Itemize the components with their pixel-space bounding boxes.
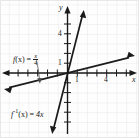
y-tick-label-4: 4 (58, 30, 62, 38)
y-axis-label: y (59, 4, 63, 12)
x-tick-label-1: 1 (75, 76, 79, 84)
annotation-f-equals: = (25, 55, 34, 64)
inverse-functions-figure: y x 4 1 1 4 f(x)=x4 f-1(x)=4x (0, 0, 139, 138)
annotation-f-denominator: 4 (33, 60, 38, 67)
x-tick-label-4: 4 (104, 76, 108, 84)
annotation-f-inverse-of-x: f-1(x)=4x (11, 108, 44, 119)
y-tick-label-1: 1 (58, 59, 62, 67)
annotation-finv-arg: (x) (18, 110, 27, 119)
annotation-finv-equals: = (28, 110, 37, 119)
annotation-f-arg: (x) (15, 55, 24, 64)
annotation-f-of-x: f(x)=x4 (13, 53, 38, 68)
annotation-finv-rhs: 4x (36, 110, 44, 119)
annotation-f-fraction: x4 (33, 53, 38, 68)
x-axis-label: x (132, 76, 136, 84)
